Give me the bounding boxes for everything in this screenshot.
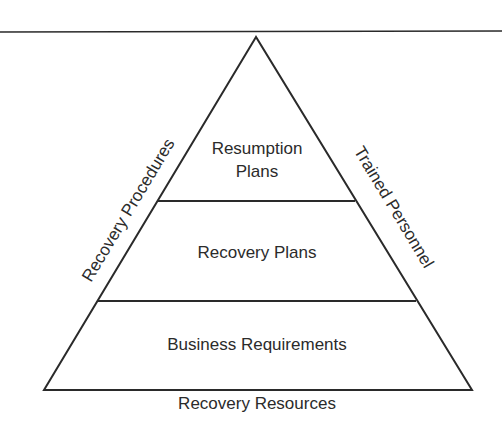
left-side-label: Recovery Procedures (78, 135, 178, 285)
tier-top: Resumption Plans (212, 139, 303, 181)
tier-top-label-line-1: Resumption (212, 139, 303, 158)
base-label: Recovery Resources (178, 394, 336, 413)
right-side-label: Trained Personnel (350, 143, 438, 271)
tier-bottom: Business Requirements (167, 335, 347, 354)
tier-middle-label: Recovery Plans (197, 243, 316, 262)
tier-bottom-label: Business Requirements (167, 335, 347, 354)
top-rule (0, 31, 502, 32)
tier-middle: Recovery Plans (197, 243, 316, 262)
pyramid-diagram: Resumption Plans Recovery Plans Business… (0, 0, 502, 433)
tier-top-label-line-2: Plans (236, 162, 279, 181)
